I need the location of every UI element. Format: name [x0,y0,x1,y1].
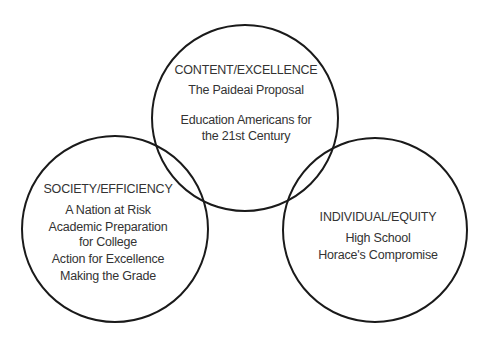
society-efficiency-heading: SOCIETY/EFFICIENCY [43,183,172,196]
individual-item-horaces-compromise: Horace's Compromise [318,249,437,262]
society-item-academic-preparation: Academic Preparation [49,221,168,234]
content-item-21st-century: the 21st Century [202,130,291,143]
society-item-for-college: for College [79,236,137,249]
society-item-nation-at-risk: A Nation at Risk [65,204,151,217]
content-item-education-americans: Education Americans for [181,114,312,127]
individual-equity-heading: INDIVIDUAL/EQUITY [320,211,437,224]
venn-circles [0,0,490,344]
content-item-paideia: The Paideai Proposal [188,84,304,97]
content-excellence-heading: CONTENT/EXCELLENCE [175,64,318,77]
society-item-action-for-excellence: Action for Excellence [52,253,165,266]
individual-item-high-school: High School [345,232,410,245]
society-item-making-the-grade: Making the Grade [60,270,156,283]
circle-individual-equity [283,138,467,322]
